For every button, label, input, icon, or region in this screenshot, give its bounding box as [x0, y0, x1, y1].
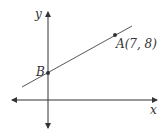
- point-a-label: A(7, 8): [115, 37, 157, 51]
- point-b: [46, 71, 50, 75]
- y-axis-label: y: [34, 7, 42, 21]
- coordinate-plane: y x A(7, 8) B: [0, 0, 165, 134]
- point-b-label: B: [35, 65, 45, 79]
- x-axis-label: x: [150, 103, 157, 117]
